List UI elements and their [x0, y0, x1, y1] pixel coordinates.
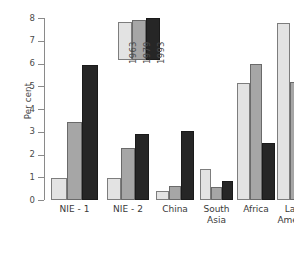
y-axis-tick — [38, 41, 44, 42]
y-axis-tick — [38, 18, 44, 19]
bar — [107, 178, 121, 200]
bar — [250, 64, 263, 200]
bar — [82, 65, 98, 200]
y-axis-tick-label: 7 — [20, 36, 35, 45]
bar-group — [277, 18, 294, 200]
bar — [262, 143, 275, 200]
bar-group — [237, 18, 275, 200]
y-axis-tick-label: 8 — [20, 14, 35, 23]
bar — [277, 23, 290, 200]
y-axis-tick-label: 4 — [20, 105, 35, 114]
bar — [211, 187, 222, 200]
bar-chart: Per cent 012345678 NIE - 1NIE - 2ChinaSo… — [0, 0, 294, 257]
bar — [169, 186, 182, 200]
y-axis-tick-label: 5 — [20, 82, 35, 91]
y-axis-tick-label: 3 — [20, 127, 35, 136]
legend-label-1963: 1963 — [129, 41, 138, 64]
bar — [135, 134, 149, 200]
x-axis-category-label: Latin America — [261, 204, 294, 226]
bar — [121, 148, 135, 200]
bar — [222, 181, 233, 200]
y-axis-tick — [38, 155, 44, 156]
y-axis-tick-label: 0 — [20, 196, 35, 205]
bar — [67, 122, 83, 200]
bar-group — [200, 18, 233, 200]
bar — [156, 191, 169, 200]
y-axis-tick — [38, 200, 44, 201]
bar-group — [51, 18, 98, 200]
bar — [237, 83, 250, 200]
y-axis-tick-label: 2 — [20, 150, 35, 159]
y-axis-tick — [38, 86, 44, 87]
bar — [181, 131, 194, 200]
y-axis-tick — [38, 109, 44, 110]
bar — [200, 169, 211, 200]
plot-area — [45, 18, 290, 200]
y-axis-tick — [38, 64, 44, 65]
legend-label-1993: 1993 — [157, 41, 166, 64]
bar — [290, 82, 294, 200]
y-axis-tick — [38, 132, 44, 133]
legend-label-1979: 1979 — [143, 41, 152, 64]
chart-legend: 196319791993 — [118, 18, 164, 104]
y-axis-tick-label: 1 — [20, 173, 35, 182]
y-axis-tick-label: 6 — [20, 59, 35, 68]
bar — [51, 178, 67, 200]
y-axis-tick — [38, 177, 44, 178]
